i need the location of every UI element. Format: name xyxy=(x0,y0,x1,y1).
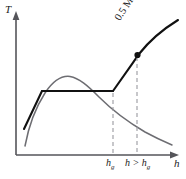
y-axis-label: T xyxy=(5,4,11,15)
superheated-state-point-marker xyxy=(134,52,140,58)
isobar-compressed-liquid-segment xyxy=(24,91,42,129)
diagram-canvas xyxy=(0,0,186,179)
x-axis-label: h xyxy=(174,158,180,169)
tick-hg-subscript: g xyxy=(111,163,115,171)
t-h-diagram-figure: T h hg h > hg 0.5 MPa xyxy=(0,0,186,179)
tick-label-hg: hg xyxy=(106,158,115,171)
saturation-dome-curve xyxy=(25,76,172,146)
tick-greater-base: h > h xyxy=(125,157,147,168)
y-axis-arrowhead xyxy=(13,11,20,20)
tick-label-h-greater-hg: h > hg xyxy=(125,158,150,171)
isobar-superheated-segment xyxy=(113,20,178,91)
tick-greater-subscript: g xyxy=(147,163,151,171)
